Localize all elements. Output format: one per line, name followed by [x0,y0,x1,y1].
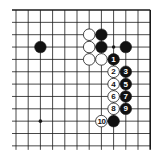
white-stone [83,54,95,66]
move-number-label: 4 [111,80,116,89]
star-point [112,45,116,49]
black-stone [96,29,108,41]
white-stone [83,29,95,41]
move-number-label: 7 [124,92,129,101]
move-number-label: 9 [124,104,129,113]
black-stone [120,41,132,53]
black-stone [108,115,120,127]
white-stone [83,41,95,53]
move-number-label: 5 [124,80,129,89]
stones: 12345678910 [35,29,132,127]
black-stone [96,41,108,53]
black-stone-9: 9 [120,103,132,115]
white-stone-8: 8 [108,103,120,115]
black-stone-3: 3 [120,66,132,78]
white-stone [96,54,108,66]
black-stone-1: 1 [108,54,120,66]
move-number-label: 2 [111,67,116,76]
black-stone-7: 7 [120,91,132,103]
move-number-label: 10 [98,117,107,126]
move-number-label: 8 [111,104,116,113]
go-board: 12345678910 [0,0,156,160]
black-stone-5: 5 [120,78,132,90]
white-stone-4: 4 [108,78,120,90]
star-point [39,119,43,123]
move-number-label: 1 [111,55,116,64]
white-stone-10: 10 [96,115,108,127]
white-stone-6: 6 [108,91,120,103]
move-number-label: 3 [124,67,129,76]
white-stone-2: 2 [108,66,120,78]
move-number-label: 6 [111,92,116,101]
black-stone [35,41,47,53]
